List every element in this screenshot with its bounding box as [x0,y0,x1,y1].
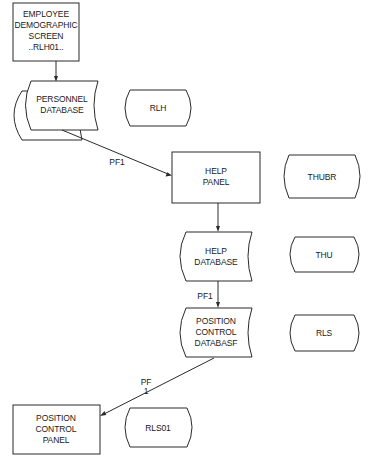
rls01-terminator-node: RLS01 [125,408,192,447]
rls-label: RLS [316,328,333,338]
flowchart-canvas: EMPLOYEE DEMOGRAPHIC SCREEN ..RLH01.. PE… [0,0,371,471]
position-db-line-3: DATABASF [195,338,238,348]
edge-help-panel-to-help-db [216,203,220,232]
employee-demographic-screen-node: EMPLOYEE DEMOGRAPHIC SCREEN ..RLH01.. [13,3,79,61]
position-control-panel-node: POSITION CONTROL PANEL [13,405,100,454]
position-panel-line-2: CONTROL [36,424,77,434]
rls01-label: RLS01 [145,423,171,433]
arrowhead-icon [100,411,106,416]
position-db-line-1: POSITION [196,316,236,326]
thubr-label: THUBR [308,172,337,182]
edge-personnel-to-help-panel: PF1 [62,130,172,177]
edge-screen-to-personnel [54,61,58,82]
employee-screen-line-4: ..RLH01.. [28,42,63,52]
personnel-db-line-1: PERSONNEL [36,94,88,104]
rlh-label: RLH [150,103,167,113]
personnel-db-line-2: DATABASE [40,105,84,115]
rlh-terminator-node: RLH [125,90,191,126]
edge-label-pf1-a: PF1 [109,157,125,167]
personnel-database-node: PERSONNEL DATABASE [14,81,98,140]
employee-screen-line-2: DEMOGRAPHIC [14,20,77,30]
help-panel-line-1: HELP [205,166,227,176]
position-control-database-node: POSITION CONTROL DATABASF [180,308,252,357]
edge-position-db-to-position-panel: PF 1 [100,358,214,416]
help-db-line-1: HELP [205,246,227,256]
help-panel-line-2: PANEL [203,177,230,187]
edge-help-db-to-position-db: PF1 [197,281,220,308]
thu-label: THU [315,250,332,260]
thu-terminator-node: THU [290,237,359,272]
edge-label-pf1-b: PF1 [197,291,213,301]
thubr-terminator-node: THUBR [284,155,360,198]
position-db-line-2: CONTROL [196,327,237,337]
edge-label-1: 1 [144,386,149,396]
help-db-line-2: DATABASE [194,257,238,267]
employee-screen-line-1: EMPLOYEE [23,9,69,19]
rls-terminator-node: RLS [290,315,359,351]
employee-screen-line-3: SCREEN [29,31,64,41]
position-panel-line-3: PANEL [43,435,70,445]
help-panel-node: HELP PANEL [172,152,260,203]
arrowhead-icon [216,226,220,232]
arrowhead-icon [216,302,220,308]
position-panel-line-1: POSITION [36,413,76,423]
help-database-node: HELP DATABASE [180,232,252,281]
